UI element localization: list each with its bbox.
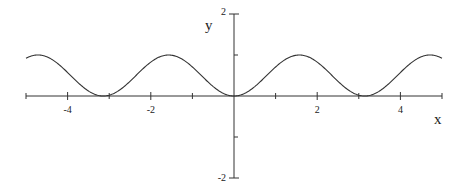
x-tick-label: 2 — [315, 104, 320, 115]
axes: -4-2242-2 — [26, 6, 442, 183]
y-axis-label: y — [205, 17, 213, 33]
y-tick-label: -2 — [218, 172, 226, 183]
plot-area: -4-2242-2 x y — [0, 0, 466, 191]
x-axis-label: x — [434, 111, 442, 127]
y-tick-label: 2 — [221, 6, 226, 17]
x-tick-label: 4 — [398, 104, 403, 115]
x-tick-label: -4 — [63, 104, 71, 115]
x-tick-label: -2 — [147, 104, 155, 115]
